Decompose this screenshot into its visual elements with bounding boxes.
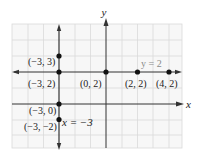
point-m3-3 bbox=[56, 53, 61, 58]
coordinate-plane: x y y = 2 x = −3 (−3, 3) (−3, 2) (0, 2) … bbox=[0, 0, 197, 156]
point-label: (−3, 0) bbox=[29, 105, 56, 117]
point-label: (4, 2) bbox=[156, 78, 178, 90]
point-2-2 bbox=[135, 69, 140, 74]
point-label: (−3, 3) bbox=[28, 56, 55, 68]
line-y2-label: y = 2 bbox=[141, 58, 162, 69]
point-0-2 bbox=[103, 69, 108, 74]
point-label: (−3, 2) bbox=[28, 78, 55, 90]
point-label: (0, 2) bbox=[80, 78, 102, 90]
point-label: (2, 2) bbox=[125, 78, 147, 90]
point-m3-2 bbox=[56, 69, 61, 74]
point-m3-m2 bbox=[56, 117, 61, 122]
y-axis-label: y bbox=[101, 6, 107, 18]
line-xm3-label: x = −3 bbox=[61, 116, 93, 128]
point-label: (−3, −2) bbox=[24, 121, 57, 133]
point-4-2 bbox=[166, 69, 171, 74]
y-axis-arrow-icon bbox=[104, 18, 109, 26]
point-m3-0 bbox=[56, 101, 61, 106]
x-axis-label: x bbox=[185, 98, 191, 110]
